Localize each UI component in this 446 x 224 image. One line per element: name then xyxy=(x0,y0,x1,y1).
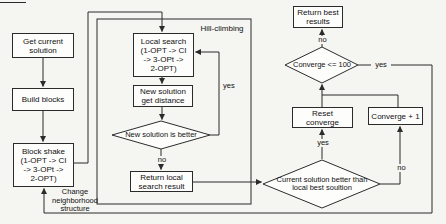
hill-climbing-label: Hill-climbing xyxy=(196,25,248,34)
node-label: Return best xyxy=(297,8,338,17)
decision-label-new-better: New solution is better xyxy=(112,131,210,139)
node-label: 2-OPT) xyxy=(150,64,176,73)
node-local-search: Local search (1-OPT -> CI -> 3-OPt -> 2-… xyxy=(133,33,194,77)
node-label: Converge + 1 xyxy=(371,112,419,121)
edge-label-hill-yes: yes xyxy=(222,82,236,90)
edge-label-converge-yes: yes xyxy=(371,61,391,69)
node-block-shake: Block shake (1-OPT -> CI -> 3-OPt -> 2-O… xyxy=(13,143,74,187)
node-label: (1-OPT -> CI xyxy=(141,46,187,55)
node-label: New solution xyxy=(140,87,186,96)
change-neighborhood-label: Change neighborhood structure xyxy=(48,188,102,214)
node-return-local-search-result: Return local search result xyxy=(130,171,193,192)
edge-label-current-no: no xyxy=(393,164,410,172)
flowchart-canvas: Get current solution Build blocks Block … xyxy=(0,0,446,224)
edge-label-better-no: no xyxy=(153,156,171,164)
node-label: Block shake xyxy=(22,147,65,156)
node-new-solution-get-distance: New solution get distance xyxy=(133,85,193,107)
node-label: get distance xyxy=(141,96,184,105)
node-get-current-solution: Get current solution xyxy=(12,33,74,58)
edge-newbetter-yes-to-localsearch xyxy=(196,52,220,135)
node-label: search result xyxy=(139,182,185,191)
decision-label-current-better: Current solution better than local best … xyxy=(262,176,382,192)
node-label: Reset xyxy=(312,109,333,118)
node-build-blocks: Build blocks xyxy=(12,88,74,111)
edge-label-converge-no: no xyxy=(314,36,331,44)
decision-label-converge-check: Converge <= 100 xyxy=(286,61,358,69)
node-label: 2-OPT) xyxy=(30,174,56,183)
node-label: (1-OPT -> CI xyxy=(21,156,67,165)
node-label: converge xyxy=(306,118,339,127)
node-label: Build blocks xyxy=(22,95,65,104)
edge-label-current-yes: yes xyxy=(313,139,333,147)
node-label: -> 3-OPt -> xyxy=(23,165,63,174)
node-converge-plus-1: Converge + 1 xyxy=(368,107,423,125)
edge-convergeplus-to-convergecheck xyxy=(322,95,398,107)
node-label: results xyxy=(306,17,330,26)
node-return-best-results: Return best results xyxy=(293,6,343,28)
node-label: Local search xyxy=(141,37,186,46)
node-label: -> 3-OPt -> xyxy=(143,55,183,64)
node-label: Get current xyxy=(23,37,63,46)
edge-currentbetter-no-to-convergeplus xyxy=(380,127,400,185)
node-reset-converge: Reset converge xyxy=(292,107,353,128)
node-label: solution xyxy=(29,46,57,55)
node-label: Return local xyxy=(140,173,183,182)
